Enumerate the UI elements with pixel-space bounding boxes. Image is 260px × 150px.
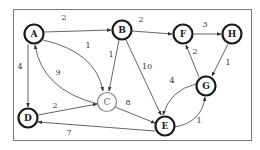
node-c: C xyxy=(98,93,117,112)
edge-b-f xyxy=(132,31,172,34)
node-d: D xyxy=(19,109,38,128)
weight-g-f: 2 xyxy=(192,47,197,56)
edge-d-c xyxy=(38,104,97,115)
weight-c-a: 9 xyxy=(55,68,60,77)
node-b-label: B xyxy=(118,25,126,35)
weight-b-e: 10 xyxy=(142,62,152,71)
edge-g-e xyxy=(163,84,196,115)
node-g: G xyxy=(197,77,216,96)
edge-c-e xyxy=(115,107,155,123)
edge-a-c xyxy=(43,40,103,91)
weight-e-d: 7 xyxy=(66,128,71,137)
edge-b-e xyxy=(126,40,161,115)
weight-c-e: 8 xyxy=(125,98,130,107)
weight-f-h: 3 xyxy=(202,20,207,29)
node-e: E xyxy=(156,117,175,136)
weight-b-f: 2 xyxy=(138,15,143,24)
edge-a-b xyxy=(44,30,111,32)
node-d-label: D xyxy=(24,113,32,123)
node-f: F xyxy=(174,25,193,44)
node-f-label: F xyxy=(180,29,187,39)
weight-g-e: 4 xyxy=(169,76,174,85)
weight-b-c: 1 xyxy=(108,50,113,59)
node-h-label: H xyxy=(228,29,237,39)
weight-a-c: 1 xyxy=(85,41,90,50)
node-c-label: C xyxy=(104,97,111,107)
node-a-label: A xyxy=(30,29,39,39)
node-g-label: G xyxy=(202,81,210,91)
edge-b-c xyxy=(109,40,119,91)
weight-e-g: 1 xyxy=(196,116,201,125)
weight-d-c: 2 xyxy=(52,101,57,110)
node-a: A xyxy=(25,25,44,44)
edge-e-d xyxy=(38,122,155,131)
weight-a-b: 2 xyxy=(61,13,66,22)
node-e-label: E xyxy=(162,121,169,131)
weight-a-d: 4 xyxy=(17,62,22,71)
edge-c-a xyxy=(35,45,98,104)
node-b: B xyxy=(113,21,132,40)
graph-diagram: 2 1 9 4 1 10 2 3 1 2 4 1 2 8 7 A B F H C… xyxy=(0,0,260,150)
node-h: H xyxy=(223,25,242,44)
weight-h-g: 1 xyxy=(225,58,230,67)
